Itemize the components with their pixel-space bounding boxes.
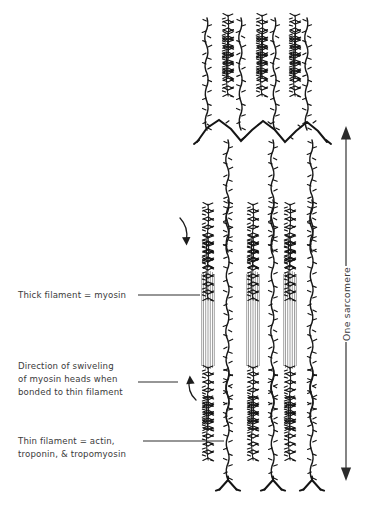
sarcomere-figure: Thick filament = myosin Direction of swi… — [0, 0, 368, 505]
label-one-sarcomere: One sarcomere — [341, 267, 352, 341]
label-swiveling-line3: bonded to thin filament — [18, 387, 123, 397]
label-thin-filament-line2: troponin, & tropomyosin — [18, 449, 126, 459]
label-thin-filament-line1: Thin filament = actin, — [17, 436, 115, 446]
label-thick-filament: Thick filament = myosin — [17, 290, 126, 300]
sarcomere-diagram: Thick filament = myosin Direction of swi… — [0, 0, 368, 505]
label-swiveling-line1: Direction of swiveling — [18, 361, 114, 371]
label-swiveling-line2: of myosin heads when — [18, 374, 118, 384]
